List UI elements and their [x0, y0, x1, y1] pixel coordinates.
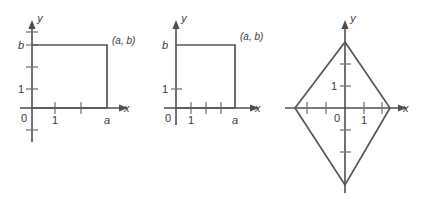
- figure-root: y x 0 1 a 1 b (a, b) y: [0, 0, 429, 199]
- x-tick-label-one-panel2: 1: [188, 114, 194, 126]
- y-axis-arrowhead-panel2: [172, 20, 179, 29]
- panel-rectangle: y x 0 1 a 1 b (a, b): [18, 12, 135, 142]
- y-tick-label-one-panel3: 1: [331, 80, 337, 92]
- vertex-label-ab-panel1: (a, b): [112, 35, 135, 46]
- y-tick-label-b-panel1: b: [18, 39, 24, 51]
- panel-square: y x 0 1 a 1 b (a, b): [162, 12, 263, 126]
- origin-label-panel2: 0: [165, 112, 171, 124]
- y-tick-label-b-panel2: b: [162, 39, 168, 51]
- panel-rhombus: y x 0 1 1: [285, 12, 409, 193]
- square-outline-panel2: [176, 45, 235, 108]
- x-tick-label-a-panel2: a: [232, 114, 238, 126]
- y-axis-label-panel2: y: [180, 12, 188, 24]
- figure-canvas: y x 0 1 a 1 b (a, b) y: [0, 0, 429, 199]
- x-axis-label-panel1: x: [123, 102, 130, 114]
- x-axis-label-panel3: x: [402, 102, 409, 114]
- y-tick-label-one-panel1: 1: [18, 83, 24, 95]
- origin-label-panel3: 0: [334, 112, 340, 124]
- y-axis-label-panel3: y: [349, 12, 357, 24]
- y-axis-arrowhead-panel1: [28, 20, 35, 29]
- origin-label-panel1: 0: [21, 112, 27, 124]
- x-axis-label-panel2: x: [254, 102, 261, 114]
- y-axis-label-panel1: y: [36, 12, 44, 24]
- x-tick-label-one-panel1: 1: [52, 114, 58, 126]
- y-tick-label-one-panel2: 1: [162, 83, 168, 95]
- vertex-label-ab-panel2: (a, b): [240, 31, 263, 42]
- x-tick-label-a-panel1: a: [104, 114, 110, 126]
- rectangle-outline-panel1: [32, 45, 107, 108]
- x-tick-label-one-panel3: 1: [361, 114, 367, 126]
- y-axis-arrowhead-panel3: [341, 20, 348, 29]
